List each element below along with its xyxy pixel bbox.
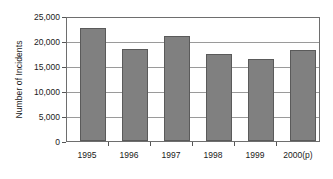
y-tick-mark-0 (62, 142, 66, 143)
x-tick-mark-5 (276, 142, 277, 146)
x-tick-mark-4 (234, 142, 235, 146)
x-tick-mark-1 (108, 142, 109, 146)
plot-area (66, 17, 320, 142)
y-axis-tick-labels: 25,000 20,000 15,000 10,000 5,000 0 (24, 0, 60, 179)
bar-chart: Number of Incidents 25,000 20,000 15,000… (0, 0, 333, 179)
bars-layer (67, 18, 319, 141)
y-tick-label-5000: 5,000 (24, 113, 60, 122)
bar-1997 (164, 36, 190, 141)
y-tick-label-0: 0 (24, 138, 60, 147)
bar-2000p (290, 50, 316, 141)
x-tick-label-2000p: 2000(p) (272, 150, 324, 160)
bar-1999 (248, 59, 274, 141)
y-tick-label-20000: 20,000 (24, 38, 60, 47)
y-tick-label-10000: 10,000 (24, 88, 60, 97)
y-tick-label-25000: 25,000 (24, 13, 60, 22)
bar-1998 (206, 54, 232, 141)
x-tick-mark-3 (192, 142, 193, 146)
y-tick-label-15000: 15,000 (24, 63, 60, 72)
x-tick-mark-2 (150, 142, 151, 146)
bar-1995 (80, 28, 106, 141)
bar-1996 (122, 49, 148, 141)
